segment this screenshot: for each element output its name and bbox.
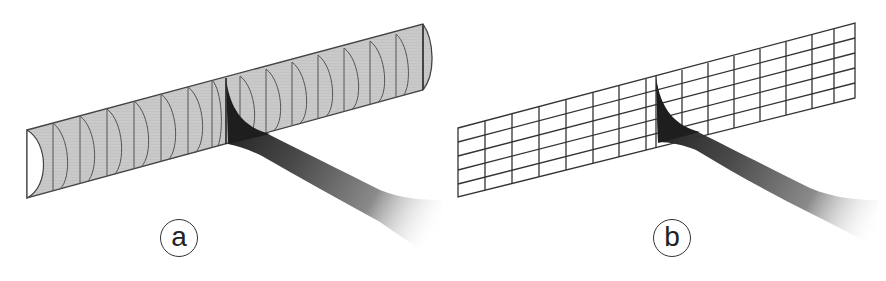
tube-surface-diagram bbox=[0, 0, 443, 281]
label-b-text: b bbox=[664, 223, 680, 251]
grid-lines bbox=[458, 23, 855, 197]
wake-sheet bbox=[656, 78, 878, 250]
label-b: b bbox=[653, 219, 691, 257]
panel-b: b bbox=[443, 0, 886, 281]
label-a: a bbox=[160, 219, 198, 257]
label-a-text: a bbox=[171, 223, 187, 251]
panel-a: a bbox=[0, 0, 443, 281]
